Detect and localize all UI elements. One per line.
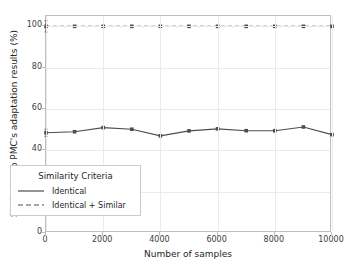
x-tick-mark [45, 232, 46, 236]
legend-label: Identical + Similar [52, 201, 126, 210]
x-tick-label: 0 [42, 236, 47, 244]
legend-item-identical[interactable]: Identical [17, 186, 134, 196]
data-point-marker [302, 125, 306, 129]
x-tick-mark [102, 232, 103, 236]
legend-item-identical-plus-similar[interactable]: Identical + Similar [17, 200, 134, 210]
data-point-marker [73, 130, 77, 134]
gridline-horizontal [46, 150, 330, 151]
gridline-horizontal [46, 109, 330, 110]
chart-figure: Similarity to PMC's adaptation results (… [0, 0, 355, 269]
data-point-marker [130, 127, 134, 131]
gridline-vertical [218, 16, 219, 231]
x-tick-mark [217, 232, 218, 236]
x-tick-label: 6000 [206, 236, 226, 244]
y-tick-mark [41, 67, 45, 68]
y-tick-mark [41, 25, 45, 26]
legend-label: Identical [52, 187, 86, 196]
y-tick-mark [41, 149, 45, 150]
y-tick-label: 100 [27, 21, 42, 29]
x-tick-label: 2000 [92, 236, 112, 244]
data-point-marker [244, 129, 248, 133]
legend-title: Similarity Criteria [17, 171, 134, 181]
x-tick-mark [331, 232, 332, 236]
legend-swatch-dashed-line-icon [17, 200, 45, 210]
x-axis-label: Number of samples [45, 249, 331, 259]
x-tick-mark [159, 232, 160, 236]
legend-swatch-solid-line-icon [17, 186, 45, 196]
x-tick-label: 8000 [264, 236, 284, 244]
gridline-horizontal [46, 68, 330, 69]
data-point-marker [187, 129, 191, 133]
gridline-vertical [160, 16, 161, 231]
chart-legend: Similarity Criteria Identical Identical … [10, 165, 141, 216]
gridline-vertical [275, 16, 276, 231]
gridline-vertical [332, 16, 333, 231]
x-tick-mark [274, 232, 275, 236]
x-tick-label: 4000 [149, 236, 169, 244]
series-identical [44, 125, 334, 137]
gridline-horizontal [46, 26, 330, 27]
x-tick-label: 10000 [318, 236, 343, 244]
y-tick-mark [41, 108, 45, 109]
